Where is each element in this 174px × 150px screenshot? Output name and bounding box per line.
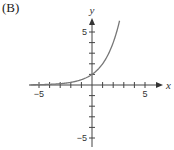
exponential-graph: −555−5xy <box>0 0 174 150</box>
y-tick-label-5: 5 <box>82 27 87 37</box>
axes <box>29 18 163 147</box>
x-tick-label-neg5: −5 <box>34 89 44 99</box>
y-axis-arrow-icon <box>89 18 95 25</box>
curve-line <box>31 21 120 85</box>
y-axis-label: y <box>89 4 95 16</box>
axis-labels: −555−5xy <box>34 4 171 143</box>
y-tick-label-neg5: −5 <box>77 133 87 143</box>
x-axis-label: x <box>165 79 171 91</box>
x-tick-label-5: 5 <box>142 89 147 99</box>
x-axis-arrow-icon <box>156 82 163 88</box>
